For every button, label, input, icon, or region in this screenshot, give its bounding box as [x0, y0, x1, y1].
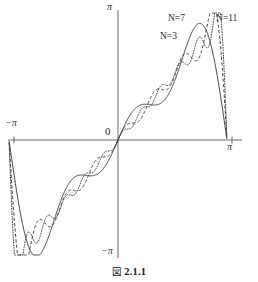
y-axis-label-minus-pi: −π [101, 246, 113, 256]
x-axis-label-minus-pi: −π [5, 118, 17, 128]
figure-caption: 図 2.1.1 [0, 264, 258, 278]
y-axis-label-pi: π [107, 2, 112, 12]
figure-caption-mark: 図 [112, 266, 122, 277]
series-annotation-n-3: N=3 [160, 32, 177, 42]
curve-n-11-line [9, 13, 227, 255]
series-annotation-n-11: N=11 [216, 14, 237, 24]
curve-n-7-line [9, 13, 227, 255]
series-annotation-n-7: N=7 [168, 14, 185, 24]
origin-label: 0 [105, 126, 111, 137]
figure-container: π −π 0 π −π N=3 N=7 N=11 図 2.1.1 [0, 0, 258, 282]
x-axis-label-pi: π [227, 142, 232, 152]
figure-caption-number: 2.1.1 [124, 266, 146, 277]
fourier-curves-overlay [0, 0, 258, 266]
